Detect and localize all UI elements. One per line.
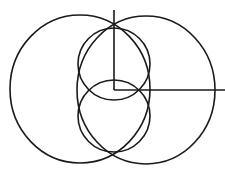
overlapping-circles-diagram (0, 0, 225, 175)
diagram-canvas (0, 0, 225, 175)
bottom-circle (78, 80, 150, 152)
left-ellipse (10, 15, 150, 163)
